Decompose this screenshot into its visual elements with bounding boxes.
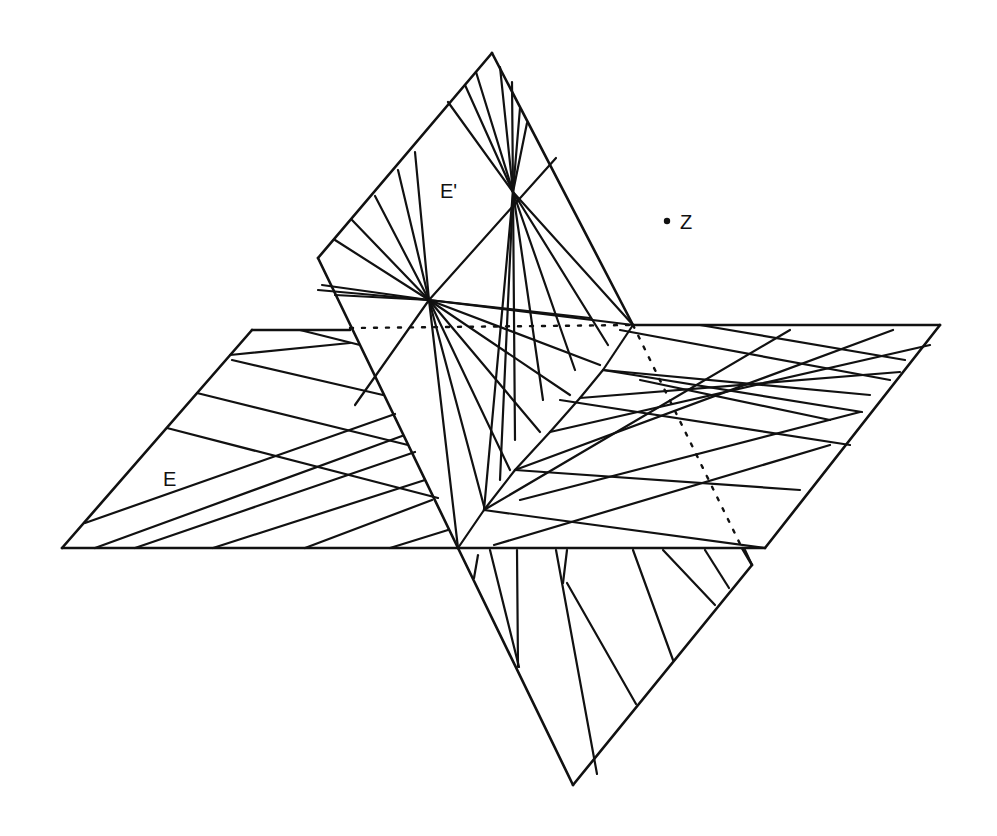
fan-ray-upper [512,82,513,192]
fold-chain-segment [580,370,603,398]
fold-chain-segment [458,510,484,548]
hidden-line-intersection [350,325,633,328]
fan-ray-down [513,192,608,345]
plane-e-ruling-left-a [300,330,360,345]
plane-e-ruling-left-b [390,530,448,548]
ruling-lines [85,67,930,774]
diagonal-line [448,102,513,192]
fan-ray-left [352,220,429,300]
plane-e-ruling-left-a [197,393,408,445]
fan-ray-left [398,170,429,300]
plane-e-prime-lower-left-edge [458,548,573,785]
label-point-z: Z [680,211,692,233]
plane-e-ruling-right-a [515,330,893,470]
fan-ray-down [500,192,513,480]
lower-plane-ruling [663,550,715,605]
label-plane-e: E [163,468,176,490]
plane-e-ruling-left-a [230,343,350,355]
fan-ray-lower [429,300,458,548]
plane-e-ruling-right-b [515,470,800,490]
lower-plane-ruling [567,583,636,704]
fan-ray-left [335,240,429,300]
plane-e-left-edge [62,330,252,548]
plane-e-ruling-right-b [620,330,890,380]
plane-e-ruling-right-a [550,345,930,432]
plane-e-ruling-right-b [484,510,765,548]
figure: Z E' E [0,0,997,836]
plane-e-prime-lower-right-edge [573,565,752,785]
fan-ray-down [513,192,543,400]
fan-ray-down [484,192,513,510]
lower-plane-ruling [474,555,478,578]
plane-e-ruling-left-b [135,452,415,548]
intersecting-planes-diagram: Z E' E [0,0,997,836]
fan-ray-upper [465,85,513,192]
hidden-line-projection [633,325,742,548]
lower-plane-ruling [745,550,752,565]
plane-e-prime-top-left-edge [318,53,492,258]
lower-plane-ruling [633,550,673,660]
lower-plane-ruling [705,550,729,588]
lower-plane-ruling [563,550,567,583]
diagonal-line [355,300,429,405]
label-plane-e-prime: E' [440,180,457,202]
plane-e-ruling-left-b [95,436,402,548]
point-z-marker [664,218,670,224]
plane-e-ruling-left-a [232,360,383,395]
lower-plane-ruling [517,550,518,667]
lower-plane-ruling [490,550,519,667]
plane-e-ruling-right-b [700,325,905,360]
